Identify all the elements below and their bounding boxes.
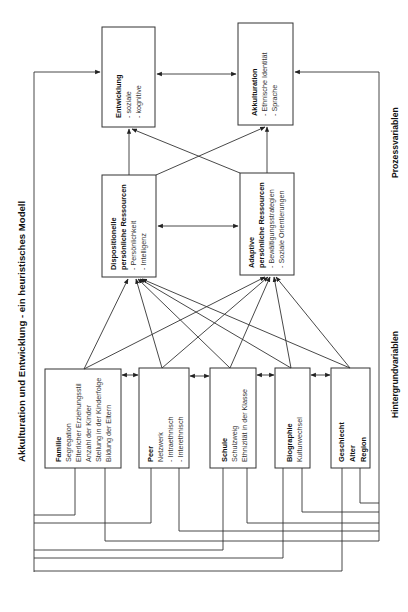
adaptiv-item: - Soziale Orientierungen [277,190,286,268]
model-diagram: Akkulturation und Entwicklung - ein heur… [0,0,408,612]
region-title: Region [359,436,368,462]
box-peer: Peer Netzwerk - Intraethnisch - Intereth… [139,368,189,468]
resource-to-outcome-arrows [129,127,267,175]
akkulturation-title: Akkulturation [250,68,259,116]
akkulturation-item: - Sprache [270,85,279,116]
background-to-resource-arrows [84,277,350,369]
adaptiv-item: - Bewältigungsstrategien [267,189,276,268]
schule-title: Schule [220,438,229,462]
alter-title: Alter [348,445,357,462]
schule-item: Ethnizität in der Klasse [240,389,249,462]
entwicklung-item: - kognitive [134,85,143,118]
familie-title: Familie [54,437,63,462]
box-akkulturation: Akkulturation - Ethnische Identität - Sp… [238,23,293,125]
peer-item: Netzwerk [156,432,165,462]
box-biographie: Biographie Kulturwechsel [275,368,310,468]
peer-title: Peer [146,446,155,462]
familie-item: Anzahl der Kinder [84,404,93,462]
schule-item: Schulzweig [230,426,239,462]
familie-item: Segregation [64,423,73,462]
label-background-variables: Hintergrundvariablen [390,331,400,418]
box-schule: Schule Schulzweig Ethnizität in der Klas… [210,368,256,468]
familie-item: Stellung in der Kinderfolge [94,378,103,462]
entwicklung-item: - soziale [124,91,133,118]
familie-item: Bildung der Eltern [104,405,113,462]
dispositionell-item: - Persönlichkeit [129,221,138,270]
diagram-title: Akkulturation und Entwicklung - ein heur… [16,201,27,462]
adaptiv-title: Adaptive [247,237,256,268]
entwicklung-title: Entwicklung [114,74,123,118]
akkulturation-item: - Ethnische Identität [260,52,269,116]
feedback-routing-lines [34,72,379,572]
peer-item: - Intraethnisch [166,416,175,462]
box-familie: Familie Segregation Elterlicher Erziehun… [45,369,121,468]
box-geschlecht-alter-region: Geschlecht Alter Region [331,368,370,468]
biographie-title: Biographie [285,423,294,462]
label-process-variables: Prozessvariablen [390,107,400,178]
box-entwicklung: Entwicklung - soziale - kognitive [102,27,155,127]
familie-item: Elterlicher Erziehungsstil [74,383,83,462]
box-dispositionelle-ressourcen: Dispositionelle persönliche Ressourcen -… [102,175,156,277]
dispositionell-item: - Intelligenz [139,233,148,270]
biographie-item: Kulturwechsel [295,417,304,462]
dispositionell-title: Dispositionelle [109,217,118,270]
adaptiv-title: persönliche Ressourcen [257,182,266,268]
peer-item: - Interethnisch [176,416,185,462]
box-adaptive-ressourcen: Adaptive persönliche Ressourcen - Bewält… [240,173,294,275]
geschlecht-title: Geschlecht [337,422,346,462]
dispositionell-title: persönliche Ressourcen [119,184,128,270]
